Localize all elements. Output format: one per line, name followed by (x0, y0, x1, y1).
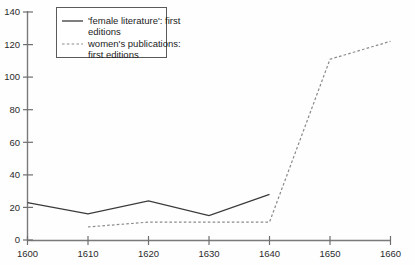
series-female-literature-line (28, 194, 270, 215)
x-tick-label: 1660 (380, 248, 401, 259)
y-tick-label: 0 (15, 234, 20, 245)
series-womens-publications-line (88, 41, 391, 227)
line-chart: 140 120 100 80 60 40 20 0 1600 1610 1620… (0, 0, 415, 265)
x-tick-label: 1620 (138, 248, 159, 259)
y-tick-label: 60 (9, 137, 20, 148)
y-axis-tick-labels: 140 120 100 80 60 40 20 0 (4, 6, 20, 245)
x-tick-label: 1640 (259, 248, 280, 259)
y-tick-label: 20 (9, 202, 20, 213)
x-axis-tick-labels: 1600 1610 1620 1630 1640 1650 1660 (17, 248, 401, 259)
y-tick-label: 100 (4, 71, 20, 82)
legend-label-line1: women's publications: (87, 38, 181, 49)
x-tick-label: 1600 (17, 248, 38, 259)
x-tick-label: 1610 (77, 248, 98, 259)
legend-label-line2: editions (88, 26, 121, 37)
chart-legend: 'female literature': first editions wome… (57, 8, 181, 60)
legend-label-line2: first editions (88, 49, 139, 60)
y-tick-label: 40 (9, 169, 20, 180)
legend-label-line1: 'female literature': first (88, 15, 181, 26)
chart-container: 140 120 100 80 60 40 20 0 1600 1610 1620… (0, 0, 415, 265)
y-tick-label: 80 (9, 104, 20, 115)
x-tick-label: 1650 (319, 248, 340, 259)
y-tick-label: 140 (4, 6, 20, 17)
y-tick-label: 120 (4, 39, 20, 50)
x-tick-label: 1630 (198, 248, 219, 259)
